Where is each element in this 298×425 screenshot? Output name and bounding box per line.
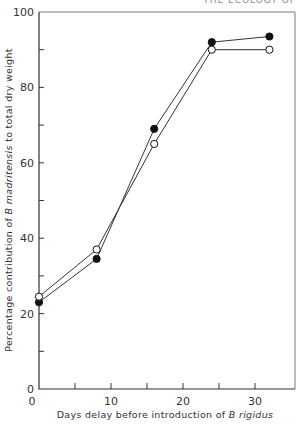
filled-circle-marker xyxy=(93,255,100,262)
y-tick-label: 80 xyxy=(20,81,34,94)
plot-axes xyxy=(39,12,295,389)
filled-circle-marker xyxy=(208,39,215,46)
open-circle-marker xyxy=(266,46,273,53)
filled-circle-marker xyxy=(266,33,273,40)
y-tick-label: 20 xyxy=(20,308,34,321)
filled-series-line xyxy=(39,37,269,303)
x-tick-label: 30 xyxy=(248,395,262,408)
x-tick-label: 0 xyxy=(29,395,36,408)
x-tick-label: 20 xyxy=(176,395,190,408)
data-lines xyxy=(35,33,273,306)
x-axis-label: Days delay before introduction of B rigi… xyxy=(57,409,274,420)
y-tick-label: 60 xyxy=(20,157,34,170)
filled-circle-marker xyxy=(151,125,158,132)
open-circle-marker xyxy=(93,246,100,253)
open-circle-marker xyxy=(35,293,42,300)
y-axis-label: Percentage contribution of B madritensis… xyxy=(3,48,14,352)
y-tick-label: 100 xyxy=(13,6,34,19)
open-circle-marker xyxy=(151,140,158,147)
x-tick-label: 10 xyxy=(104,395,118,408)
axis-ticks: 0204060801000102030 xyxy=(13,6,262,408)
line-chart: 0204060801000102030 Days delay before in… xyxy=(0,0,298,425)
open-series-line xyxy=(39,50,269,297)
open-circle-marker xyxy=(208,46,215,53)
y-tick-label: 40 xyxy=(20,232,34,245)
